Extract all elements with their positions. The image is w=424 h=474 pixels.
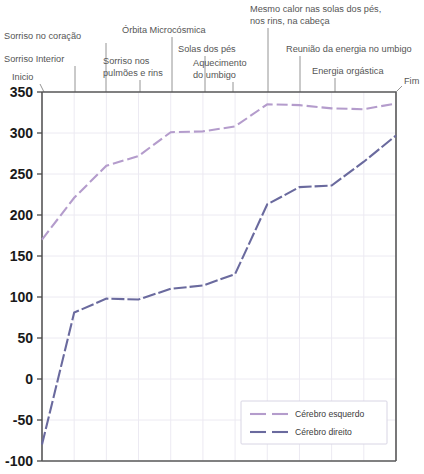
annotation-label-line: Órbita Microcósmica <box>122 25 207 35</box>
chart-root: InicioSorriso InteriorSorriso no coração… <box>0 0 424 474</box>
y-axis-ticks: 350300250200150100500-50-100 <box>5 84 42 469</box>
annotation-label-line: Sorriso no coração <box>4 31 81 41</box>
annotation-label-line: Energia orgástica <box>312 66 384 76</box>
annotation-leader-line <box>396 86 402 92</box>
annotation-label: Inicio <box>12 72 33 82</box>
y-tick-label: 150 <box>10 248 34 264</box>
annotation-label-line: Mesmo calor nas solas dos pés, <box>250 4 381 14</box>
y-tick-label: 350 <box>10 84 34 100</box>
annotation-label: Reunião da energia no umbigo <box>286 44 412 54</box>
annotation-label: Órbita Microcósmica <box>122 25 207 35</box>
annotation-label: Sorriso Interior <box>4 54 64 64</box>
legend-background <box>241 401 387 444</box>
legend-label[interactable]: Cérebro direito <box>295 427 352 437</box>
annotation-label: Mesmo calor nas solas dos pés,nos rins, … <box>250 4 381 26</box>
annotation-label-line: do umbigo <box>193 70 236 80</box>
annotation-label-line: Sorriso Interior <box>4 54 64 64</box>
annotation-label-line: Inicio <box>12 72 33 82</box>
annotation-label-line: Fim <box>404 76 420 86</box>
annotation-label-line: Solas dos pés <box>178 44 236 54</box>
data-series <box>42 103 396 444</box>
annotation-label-line: nos rins, na cabeça <box>250 16 331 26</box>
annotation-label: Fim <box>404 76 420 86</box>
y-tick-label: 200 <box>10 207 34 223</box>
annotation-label-line: Sorriso nos <box>103 56 150 66</box>
series-line-cerebro-esquerdo <box>42 103 396 239</box>
annotation-label-line: Reunião da energia no umbigo <box>286 44 412 54</box>
y-tick-label: -50 <box>13 412 33 428</box>
annotation-label: Sorriso nospulmões e rins <box>103 56 163 78</box>
annotation-label: Aquecimentodo umbigo <box>193 58 247 80</box>
annotation-label: Solas dos pés <box>178 44 236 54</box>
annotation-leader-line <box>40 84 44 92</box>
y-tick-label: 0 <box>25 371 33 387</box>
y-tick-label: 300 <box>10 125 34 141</box>
legend-label[interactable]: Cérebro esquerdo <box>295 409 364 419</box>
y-tick-label: -100 <box>5 453 33 469</box>
y-tick-label: 250 <box>10 166 34 182</box>
annotation-label: Sorriso no coração <box>4 31 81 41</box>
chart-legend[interactable]: Cérebro esquerdoCérebro direito <box>241 401 387 444</box>
annotation-label-line: pulmões e rins <box>103 68 163 78</box>
y-tick-label: 100 <box>10 289 34 305</box>
y-tick-label: 50 <box>17 330 33 346</box>
line-chart-figure: InicioSorriso InteriorSorriso no coração… <box>0 0 424 474</box>
annotation-label-line: Aquecimento <box>193 58 247 68</box>
stage-annotations: InicioSorriso InteriorSorriso no coração… <box>4 4 420 92</box>
series-line-cerebro-direito <box>42 135 396 444</box>
annotation-label: Energia orgástica <box>312 66 384 76</box>
